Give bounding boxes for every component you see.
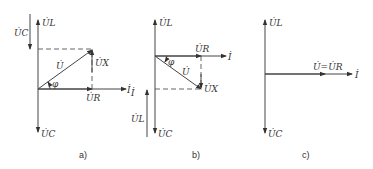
label-ur-a: U̇R bbox=[86, 92, 101, 103]
panel-c: U̇L U̇=U̇R İ U̇C c) bbox=[265, 17, 359, 160]
caption-c: c) bbox=[302, 150, 310, 160]
u-phasor-a bbox=[38, 50, 92, 89]
label-ul-side-b: U̇L bbox=[131, 113, 145, 124]
panel-b: U̇L U̇R İ φ U̇ U̇X İ U̇L U̇C b) bbox=[130, 17, 232, 160]
phi-arc-b bbox=[165, 56, 167, 62]
label-phi-a: φ bbox=[52, 79, 59, 89]
label-u-eq-ur-c: U̇=U̇R bbox=[313, 61, 343, 72]
label-i-side-b: İ bbox=[130, 87, 135, 98]
phasor-diagrams: U̇L U̇C U̇ U̇X φ U̇R İ U̇C a) U̇L U̇R İ … bbox=[0, 0, 373, 169]
label-ux-b: U̇X bbox=[204, 83, 219, 94]
label-ux-a: U̇X bbox=[95, 57, 110, 68]
panel-a: U̇L U̇C U̇ U̇X φ U̇R İ U̇C a) bbox=[14, 14, 131, 160]
label-u-b: U̇ bbox=[182, 66, 190, 77]
label-ul-c: U̇L bbox=[269, 17, 283, 28]
label-i-b: İ bbox=[227, 51, 232, 62]
label-uc-c: U̇C bbox=[268, 128, 283, 139]
label-ul-a: U̇L bbox=[42, 17, 56, 28]
label-uc-top-a: U̇C bbox=[14, 27, 29, 38]
caption-a: a) bbox=[79, 150, 87, 160]
caption-b: b) bbox=[192, 150, 200, 160]
label-uc-a: U̇C bbox=[41, 128, 56, 139]
label-ul-b: U̇L bbox=[159, 17, 173, 28]
u-phasor-b bbox=[155, 56, 201, 89]
phi-arc-a bbox=[48, 82, 50, 89]
label-ur-b: U̇R bbox=[195, 43, 210, 54]
label-u-a: U̇ bbox=[56, 60, 64, 71]
label-uc-b: U̇C bbox=[158, 128, 173, 139]
label-phi-b: φ bbox=[168, 57, 175, 67]
label-i-c: İ bbox=[354, 69, 359, 80]
